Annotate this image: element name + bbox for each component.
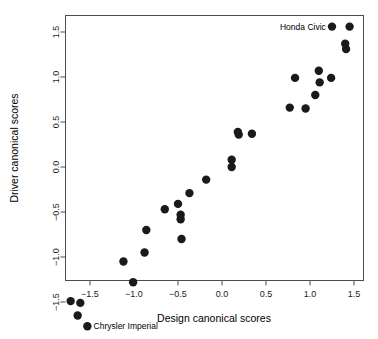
x-tick-label: 1.0 (304, 289, 317, 299)
data-point (235, 130, 243, 138)
data-point (129, 278, 137, 286)
y-tick-label: 0.5 (51, 116, 61, 129)
data-point (202, 175, 210, 183)
x-tick-label: 1.5 (348, 289, 361, 299)
y-axis-title: Driver canonical scores (8, 93, 20, 202)
data-point (227, 163, 235, 171)
x-tick-label: −1.0 (125, 289, 143, 299)
data-point (227, 156, 235, 164)
data-point (328, 22, 336, 30)
data-point (291, 74, 299, 82)
data-point (185, 189, 193, 197)
point-annotation: Honda Civic (280, 22, 327, 32)
data-point (345, 22, 353, 30)
point-annotation: Chrysler Imperial (94, 321, 158, 331)
y-tick-label: −1.0 (51, 248, 61, 266)
y-tick-label: 1.0 (51, 71, 61, 84)
data-point (140, 248, 148, 256)
data-point (176, 215, 184, 223)
x-tick-label: −1.5 (81, 289, 99, 299)
x-tick-label: −0.5 (169, 289, 187, 299)
y-tick-label: 1.5 (51, 26, 61, 39)
data-point (142, 226, 150, 234)
x-tick-label: 0.0 (216, 289, 229, 299)
x-axis-title: Design canonical scores (157, 312, 271, 324)
y-tick-label: −0.5 (51, 203, 61, 221)
y-tick-label: 0.0 (51, 161, 61, 174)
data-point (66, 297, 74, 305)
data-point (327, 74, 335, 82)
data-point (286, 103, 294, 111)
data-point (83, 322, 91, 330)
y-tick-label: −1.5 (51, 293, 61, 311)
data-point (315, 78, 323, 86)
data-point (301, 104, 309, 112)
data-point (73, 311, 81, 319)
scatter-plot: −1.5−1.0−0.50.00.51.01.5 −1.5−1.0−0.50.0… (0, 0, 378, 339)
data-point (174, 200, 182, 208)
data-point (76, 299, 84, 307)
data-point (177, 235, 185, 243)
plot-canvas: −1.5−1.0−0.50.00.51.01.5 −1.5−1.0−0.50.0… (0, 0, 378, 339)
data-point (342, 45, 350, 53)
data-point (161, 205, 169, 213)
x-tick-label: 0.5 (260, 289, 273, 299)
data-point (248, 130, 256, 138)
data-point (119, 257, 127, 265)
data-point (315, 67, 323, 75)
data-point (311, 91, 319, 99)
